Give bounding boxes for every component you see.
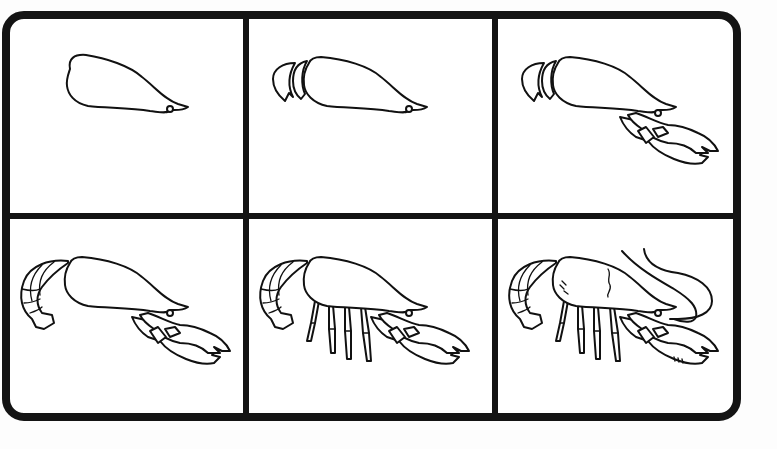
step-panel-4: [10, 219, 243, 413]
lobster-leg: [556, 301, 568, 341]
lobster-eye: [655, 310, 661, 316]
lobster-leg-joint: [311, 323, 369, 333]
lobster-step-1-drawing: [10, 19, 243, 213]
lobster-leg: [610, 307, 620, 361]
step-panel-5: [249, 219, 482, 413]
lobster-eye: [167, 106, 173, 112]
lobster-leg: [345, 307, 351, 359]
lobster-step-6-drawing: [498, 219, 731, 413]
lobster-step-3-drawing: [498, 19, 731, 213]
lobster-leg-joint: [560, 323, 618, 333]
step-panel-1: [10, 19, 243, 213]
step-panel-6: [498, 219, 731, 413]
lobster-eye: [406, 106, 412, 112]
step-panel-3: [498, 19, 731, 213]
lobster-body: [553, 257, 676, 312]
lobster-eye: [655, 110, 661, 116]
lobster-tail-segment: [522, 63, 544, 101]
panel-grid-frame: [2, 11, 741, 421]
lobster-eye: [167, 310, 173, 316]
lobster-step-5-drawing: [249, 219, 482, 413]
lobster-leg: [594, 307, 600, 359]
lobster-step-2-drawing: [249, 19, 482, 213]
lobster-body: [304, 257, 427, 312]
lobster-eye: [406, 310, 412, 316]
lobster-body: [65, 257, 188, 312]
lobster-body: [553, 57, 676, 112]
lobster-leg: [361, 307, 371, 361]
lobster-leg: [307, 301, 319, 341]
lobster-body: [304, 57, 427, 112]
lobster-tail-segment: [273, 63, 295, 101]
lobster-body: [67, 55, 188, 113]
step-panel-2: [249, 19, 482, 213]
drawing-worksheet: [0, 0, 777, 449]
lobster-step-4-drawing: [10, 219, 243, 413]
